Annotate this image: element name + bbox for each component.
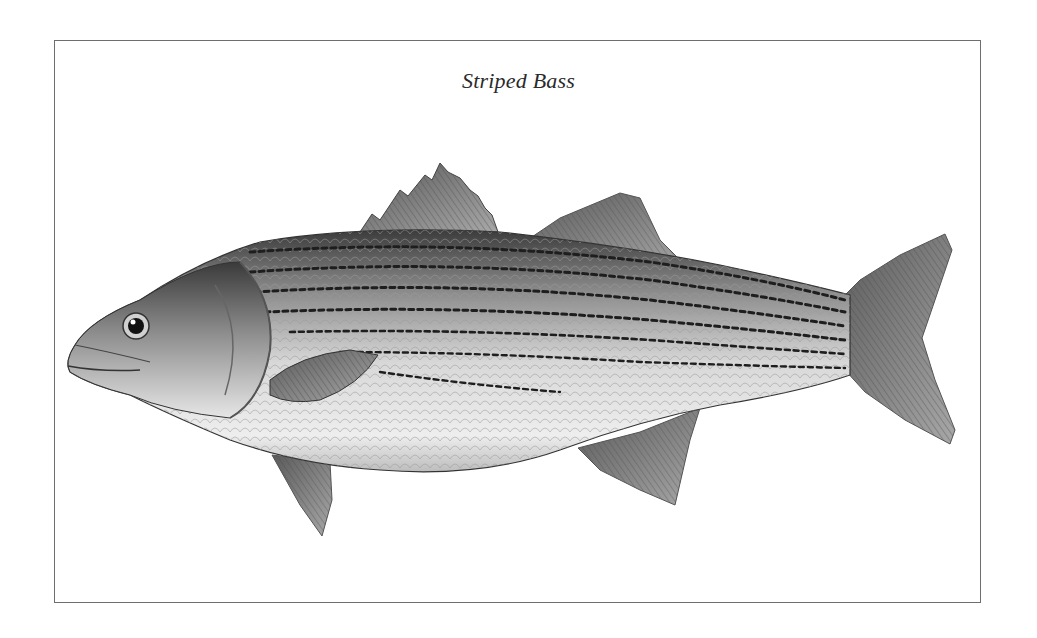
fish-head (68, 262, 271, 418)
fish-eye (123, 313, 149, 339)
tail-fin (840, 234, 955, 444)
striped-bass-illustration (0, 0, 1037, 638)
spiny-dorsal-fin (360, 163, 498, 232)
pelvic-fin (272, 455, 332, 536)
